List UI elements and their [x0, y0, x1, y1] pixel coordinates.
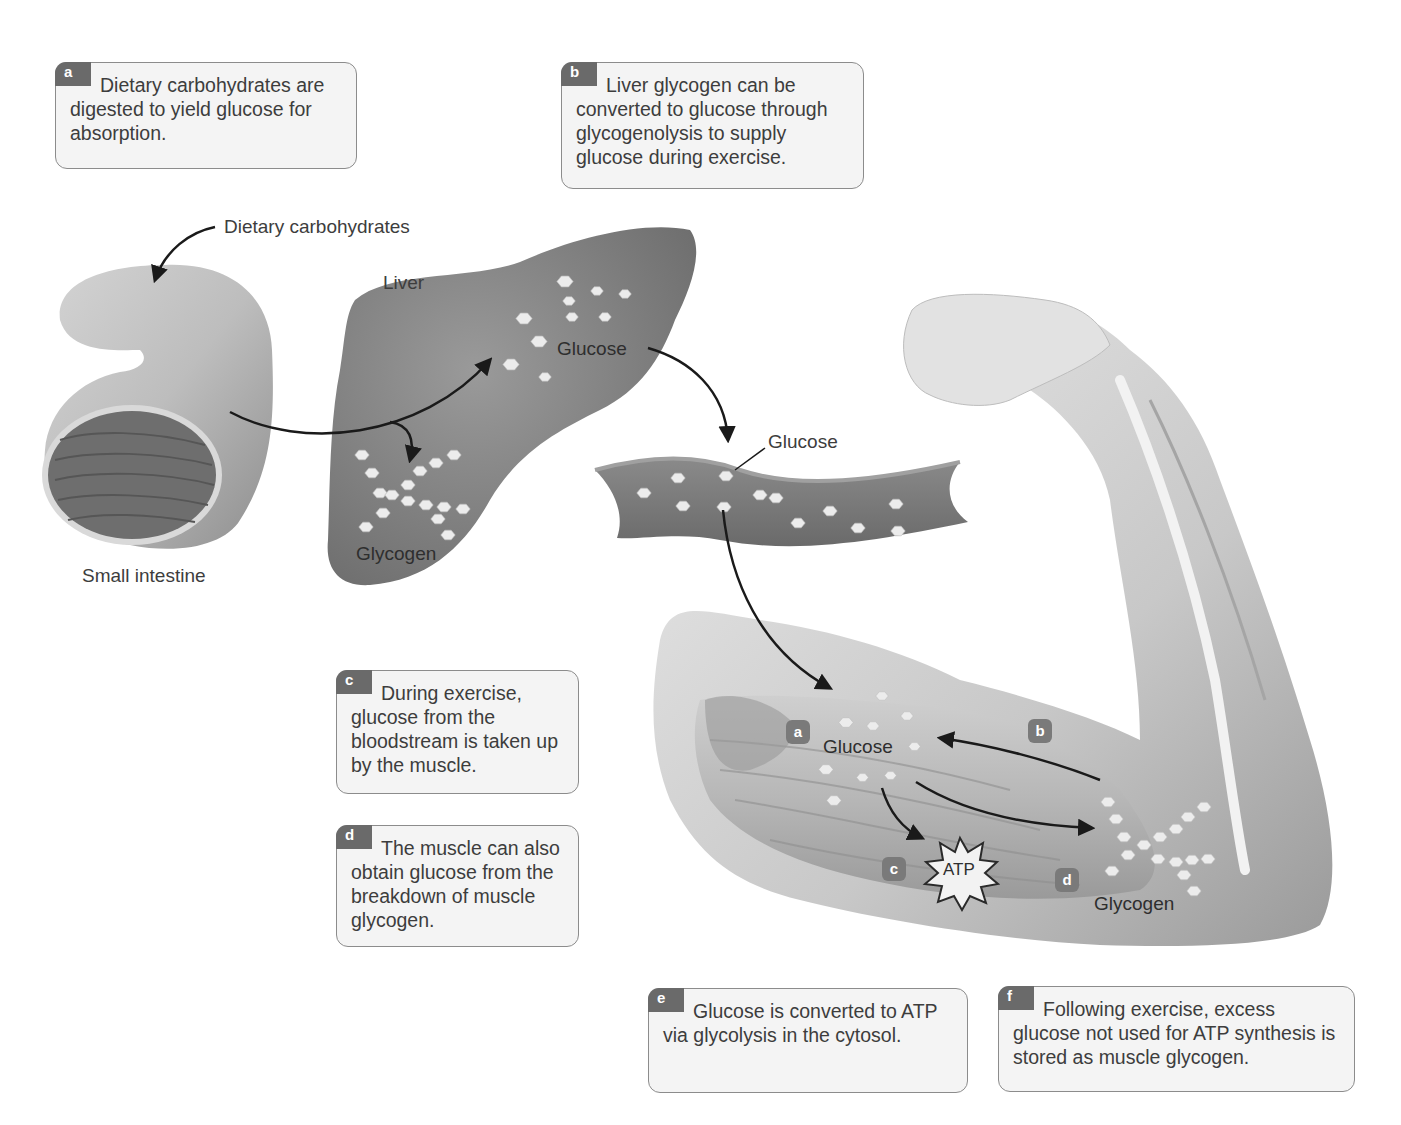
label-blood-glucose: Glucose: [768, 431, 838, 453]
label-liver: Liver: [383, 272, 424, 294]
callout-e: e Glucose is converted to ATP via glycol…: [648, 988, 968, 1093]
label-small-intestine: Small intestine: [82, 565, 206, 587]
callout-b: b Liver glycogen can be converted to glu…: [561, 62, 864, 189]
step-marker-b: b: [1028, 719, 1052, 743]
callout-text-a: Dietary carbohydrates are digested to yi…: [70, 73, 342, 145]
callout-badge-a: a: [55, 62, 91, 86]
callout-f: f Following exercise, excess glucose not…: [998, 986, 1355, 1092]
label-muscle-glycogen: Glycogen: [1094, 893, 1174, 915]
callout-text-b: Liver glycogen can be converted to gluco…: [576, 73, 849, 169]
callout-badge-d: d: [336, 825, 372, 849]
step-marker-c: c: [882, 857, 906, 881]
step-marker-a: a: [786, 720, 810, 744]
label-liver-glycogen: Glycogen: [356, 543, 436, 565]
callout-badge-c: c: [336, 670, 372, 694]
callout-badge-f: f: [998, 986, 1034, 1010]
callout-text-c: During exercise, glucose from the bloods…: [351, 681, 564, 777]
label-atp: ATP: [943, 860, 975, 880]
callout-d: d The muscle can also obtain glucose fro…: [336, 825, 579, 947]
callout-c: c During exercise, glucose from the bloo…: [336, 670, 579, 794]
callout-text-d: The muscle can also obtain glucose from …: [351, 836, 564, 932]
callout-badge-e: e: [648, 988, 684, 1012]
step-marker-d: d: [1055, 868, 1079, 892]
callout-badge-b: b: [561, 62, 597, 86]
callout-a: a Dietary carbohydrates are digested to …: [55, 62, 357, 169]
label-muscle-glucose: Glucose: [823, 736, 893, 758]
callout-text-e: Glucose is converted to ATP via glycolys…: [663, 999, 953, 1047]
blood-vessel-illustration: [595, 459, 968, 546]
label-dietary-carbohydrates: Dietary carbohydrates: [224, 216, 410, 238]
callout-text-f: Following exercise, excess glucose not u…: [1013, 997, 1340, 1069]
label-liver-glucose: Glucose: [557, 338, 627, 360]
flexed-arm-illustration: [653, 294, 1332, 946]
small-intestine-illustration: [42, 265, 273, 549]
glucose-metabolism-diagram: a Dietary carbohydrates are digested to …: [0, 0, 1401, 1125]
